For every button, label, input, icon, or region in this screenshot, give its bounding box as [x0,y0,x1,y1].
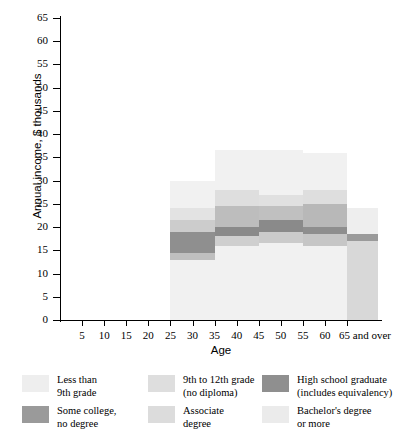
bar-band [215,227,259,236]
legend-label-line1: 9th to 12th grade [183,374,254,387]
x-tick-label: 65 and over [339,329,397,341]
legend-item[interactable]: Some college,no degree [22,405,116,430]
y-tick-label: 65 [22,12,48,23]
legend-item[interactable]: High school graduate(includes equivalenc… [262,374,392,399]
x-tick-mark [193,320,194,326]
legend-swatch [22,406,49,423]
legend-item[interactable]: Less than9th grade [22,374,97,399]
plot-area [60,18,378,320]
bar-band [303,227,347,234]
legend-swatch [148,406,175,423]
y-tick-mark [53,88,60,89]
bar-band [303,234,347,246]
y-tick-mark [53,111,60,112]
x-tick-mark [259,320,260,326]
x-tick-mark [82,320,83,326]
bar-group [347,18,378,320]
bar-group [303,18,347,320]
y-tick-mark [53,297,60,298]
chart-legend: Less than9th grade9th to 12th grade(no d… [0,372,387,444]
legend-label: Less than9th grade [57,374,97,399]
x-tick-mark [325,320,326,326]
bar-group [215,18,259,320]
y-axis-title: Annual income, $ thousands [31,46,43,246]
y-tick-mark [53,274,60,275]
x-tick-mark [215,320,216,326]
y-tick-mark [53,227,60,228]
legend-label-line2: 9th grade [57,387,97,400]
x-axis-title: Age [60,344,382,356]
legend-swatch [22,375,49,392]
y-tick-mark [53,204,60,205]
legend-label: Associatedegree [183,405,224,430]
legend-label: High school graduate(includes equivalenc… [297,374,392,399]
bar-band [215,236,259,245]
x-tick-mark [281,320,282,326]
bar-band [170,232,214,253]
x-axis-line [60,320,382,321]
x-tick-label: 60 [310,329,340,341]
legend-swatch [262,375,289,392]
legend-label: Bachelor's degreeor more [297,405,371,430]
legend-label-line1: Less than [57,374,97,387]
bar-group [170,18,214,320]
legend-label-line2: no degree [57,418,116,431]
legend-label-line1: Some college, [57,405,116,418]
x-tick-mark [303,320,304,326]
x-tick-mark [148,320,149,326]
y-tick-mark [53,320,60,321]
bar-group [259,18,303,320]
legend-swatch [262,406,289,423]
legend-label-line2: (includes equivalency) [297,387,392,400]
legend-item[interactable]: Associatedegree [148,405,224,430]
y-tick-mark [53,134,60,135]
legend-swatch [148,375,175,392]
legend-label: 9th to 12th grade(no diploma) [183,374,254,399]
y-tick-label: 0 [22,314,48,325]
legend-label-line1: High school graduate [297,374,392,387]
bar-band [259,220,303,232]
legend-label-line1: Bachelor's degree [297,405,371,418]
legend-label: Some college,no degree [57,405,116,430]
legend-item[interactable]: 9th to 12th grade(no diploma) [148,374,254,399]
y-tick-label: 5 [22,291,48,302]
legend-item[interactable]: Bachelor's degreeor more [262,405,371,430]
y-tick-mark [53,157,60,158]
bar-band [170,253,214,260]
x-tick-mark [237,320,238,326]
x-tick-mark [170,320,171,326]
legend-label-line2: (no diploma) [183,387,254,400]
x-tick-mark [347,320,348,326]
y-tick-mark [53,64,60,65]
y-tick-mark [53,181,60,182]
legend-label-line2: degree [183,418,224,431]
legend-label-line1: Associate [183,405,224,418]
y-tick-label: 10 [22,268,48,279]
bar-band [259,232,303,244]
y-tick-mark [53,250,60,251]
x-tick-mark [104,320,105,326]
bar-band [347,234,378,320]
y-tick-mark [53,41,60,42]
x-tick-mark [126,320,127,326]
legend-label-line2: or more [297,418,371,431]
y-tick-label: 60 [22,35,48,46]
y-tick-mark [53,18,60,19]
bar-band [347,234,378,241]
